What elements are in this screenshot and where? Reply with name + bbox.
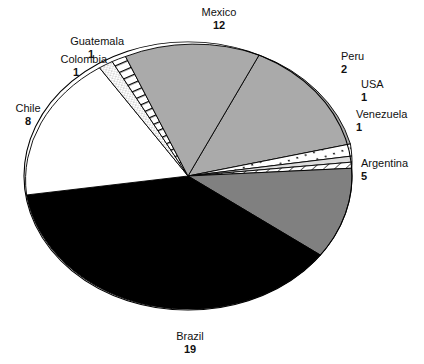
pie-label-usa: USA 1 — [361, 78, 409, 103]
pie-label-colombia-name: Colombia — [61, 53, 107, 65]
pie-label-argentina-name: Argentina — [361, 157, 408, 169]
pie-label-brazil-value: 19 — [160, 343, 220, 355]
pie-ellipse-group — [24, 42, 352, 310]
pie-label-mexico-value: 12 — [179, 19, 259, 31]
pie-label-colombia-value: 1 — [27, 66, 107, 78]
pie-chart: Mexico 12 Guatemala 1 Colombia 1 Chile 8… — [0, 0, 424, 364]
pie-label-argentina: Argentina 5 — [361, 157, 424, 182]
pie-label-peru: Peru 2 — [341, 50, 389, 75]
pie-label-venezuela: Venezuela 1 — [356, 108, 424, 133]
pie-label-peru-name: Peru — [341, 50, 364, 62]
pie-label-venezuela-value: 1 — [356, 121, 424, 133]
pie-label-chile-name: Chile — [15, 102, 40, 114]
pie-label-venezuela-name: Venezuela — [356, 108, 407, 120]
pie-label-brazil: Brazil 19 — [160, 330, 220, 355]
pie-label-chile-value: 8 — [3, 115, 53, 127]
pie-label-peru-value: 2 — [341, 63, 389, 75]
pie-label-brazil-name: Brazil — [176, 330, 204, 342]
pie-label-mexico: Mexico 12 — [179, 6, 259, 31]
pie-label-guatemala-name: Guatemala — [70, 35, 124, 47]
pie-label-argentina-value: 5 — [361, 170, 424, 182]
pie-label-mexico-name: Mexico — [202, 6, 237, 18]
pie-label-usa-name: USA — [361, 78, 384, 90]
pie-label-colombia: Colombia 1 — [27, 53, 107, 78]
pie-label-usa-value: 1 — [361, 91, 409, 103]
pie-label-chile: Chile 8 — [3, 102, 53, 127]
